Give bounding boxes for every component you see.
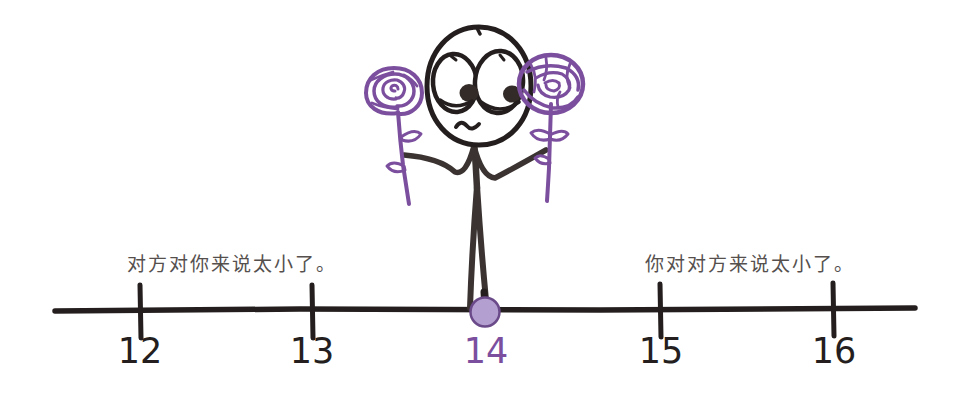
annotation-left: 对方对你来说太小了。: [127, 249, 337, 276]
position-marker-dot: [471, 298, 500, 327]
tick-label-12: 12: [118, 331, 163, 371]
tick-label-13: 13: [290, 331, 335, 371]
left-pupil: [460, 84, 479, 102]
tick-label-14: 14: [464, 331, 509, 371]
illustration-canvas: 对方对你来说太小了。 你对对方来说太小了。 12 13 14 15 16: [0, 0, 968, 396]
tick-label-15: 15: [639, 331, 684, 371]
tick-mark-15: [660, 284, 661, 337]
rose-left-icon: [366, 68, 422, 204]
figure-legs: [470, 186, 486, 308]
tick-label-16: 16: [812, 331, 857, 371]
tick-mark-16: [833, 283, 834, 336]
annotation-right: 你对对方来说太小了。: [645, 249, 855, 276]
